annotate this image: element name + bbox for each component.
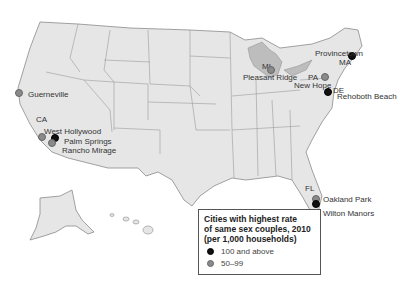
legend-title-line-3: (per 1,000 households) <box>204 234 315 244</box>
state-label: CA <box>36 115 47 124</box>
legend: Cities with highest rate of same sex cou… <box>198 209 321 275</box>
city-label: Pleasant Ridge <box>243 73 297 82</box>
city-label: Rancho Mirage <box>62 146 116 155</box>
legend-title-line-1: Cities with highest rate <box>204 214 315 224</box>
city-label: Oakland Park <box>323 195 371 204</box>
black-city-dot-icon <box>312 200 320 208</box>
state-label: FL <box>305 184 314 193</box>
legend-title-line-2: of same sex couples, 2010 <box>204 224 315 234</box>
alaska-shape <box>30 190 94 240</box>
gray-dot-icon <box>207 260 214 267</box>
gray-city-dot-icon <box>321 73 329 81</box>
city-label: Rehoboth Beach <box>337 92 397 101</box>
city-label: Wilton Manors <box>323 209 374 218</box>
hawaii-shape <box>110 214 153 235</box>
black-city-dot-icon <box>324 88 332 96</box>
legend-label-mid: 50–99 <box>221 259 243 268</box>
legend-label-high: 100 and above <box>221 247 274 256</box>
city-label: Palm Springs <box>64 137 112 146</box>
gray-city-dot-icon <box>15 89 23 97</box>
legend-item-high: 100 and above <box>204 247 315 256</box>
black-dot-icon <box>207 248 214 255</box>
city-label: Guerneville <box>28 90 68 99</box>
legend-item-mid: 50–99 <box>204 259 315 268</box>
city-label: Provincetown <box>315 49 363 58</box>
gray-city-dot-icon <box>48 139 56 147</box>
